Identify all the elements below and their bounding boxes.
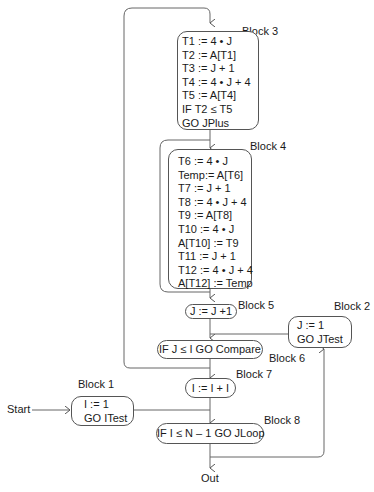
block6[interactable]: IF J ≤ I GO Compare: [157, 340, 263, 359]
block3-line: T3 := J + 1: [182, 62, 254, 76]
block3-line: T2 := A[T1]: [182, 49, 254, 63]
block2-line: J := 1: [297, 319, 343, 333]
out-label: Out: [201, 472, 219, 484]
block3-line: T4 := 4 • J + 4: [182, 76, 254, 90]
block7[interactable]: I := I + I: [185, 378, 236, 398]
block1[interactable]: I := 1 GO ITest: [71, 396, 134, 426]
start-label: Start: [7, 403, 30, 415]
block5-line: J := J +1: [186, 305, 236, 318]
block4-line: T11 := J + 1: [178, 250, 242, 264]
block3-line: T1 := 4 • J: [182, 35, 254, 49]
block8-line: IF I ≤ N – 1 GO JLoop: [157, 424, 263, 443]
block3-line: IF T2 ≤ T5: [182, 103, 254, 117]
block5-title: Block 5: [238, 299, 274, 311]
block2[interactable]: J := 1 GO JTest: [288, 316, 352, 348]
block4-line: T10 := 4 • J: [178, 223, 242, 237]
block6-title: Block 6: [269, 352, 305, 364]
block1-title: Block 1: [78, 378, 114, 390]
block1-line: I := 1: [84, 398, 121, 412]
block3[interactable]: T1 := 4 • J T2 := A[T1] T3 := J + 1 T4 :…: [177, 31, 259, 130]
block8[interactable]: IF I ≤ N – 1 GO JLoop: [156, 423, 264, 444]
block4-line: Temp:= A[T6]: [178, 169, 242, 183]
block4-line: A[T12] := Temp: [178, 277, 242, 291]
block6-line: IF J ≤ I GO Compare: [158, 341, 262, 358]
block4[interactable]: T6 := 4 • J Temp:= A[T6] T7 := J + 1 T8 …: [168, 149, 252, 289]
block4-line: T12 := 4 • J + 4: [178, 264, 242, 278]
block7-line: I := I + I: [186, 379, 235, 397]
block1-line: GO ITest: [84, 412, 121, 426]
block4-line: T6 := 4 • J: [178, 155, 242, 169]
block2-line: GO JTest: [297, 333, 343, 347]
block2-title: Block 2: [334, 300, 370, 312]
block4-line: T8 := 4 • J + 4: [178, 196, 242, 210]
block4-line: T7 := J + 1: [178, 182, 242, 196]
block4-line: T9 := A[T8]: [178, 209, 242, 223]
block8-title: Block 8: [264, 414, 300, 426]
block3-line: GO JPlus: [182, 117, 254, 131]
block3-line: T5 := A[T4]: [182, 89, 254, 103]
block5[interactable]: J := J +1: [185, 304, 237, 319]
block4-title: Block 4: [250, 140, 286, 152]
block4-line: A[T10] := T9: [178, 237, 242, 251]
block7-title: Block 7: [236, 368, 272, 380]
